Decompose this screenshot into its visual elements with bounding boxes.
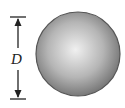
sphere xyxy=(36,12,120,96)
diameter-label: D xyxy=(11,51,22,68)
arrow-down-icon xyxy=(15,90,22,98)
arrow-up-icon xyxy=(15,18,22,26)
